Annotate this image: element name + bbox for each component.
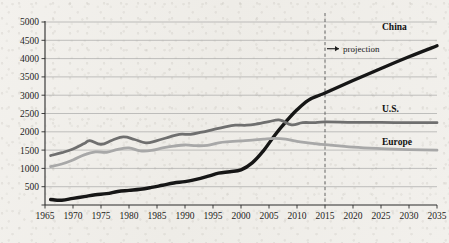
y-tick-label: 2000 (20, 127, 39, 137)
y-tick-label: 3000 (20, 91, 39, 101)
x-tick-label: 2005 (260, 211, 279, 221)
x-tick-label: 1995 (204, 211, 223, 221)
series-label-china: China (382, 22, 407, 32)
x-tick-label: 2035 (428, 211, 447, 221)
x-axis-tick-labels: 1965197019751980198519901995200020052010… (36, 211, 447, 221)
y-tick-label: 2500 (20, 109, 39, 119)
projection-arrow-head (335, 46, 339, 51)
y-tick-label: 4000 (20, 54, 39, 64)
x-tick-label: 1970 (64, 211, 83, 221)
x-tick-label: 1965 (36, 211, 55, 221)
y-tick-label: 1500 (20, 146, 39, 156)
y-tick-label: 3500 (20, 72, 39, 82)
annotations-group: projection (327, 44, 380, 54)
x-tick-label: 1980 (120, 211, 139, 221)
x-tick-label: 2015 (316, 211, 335, 221)
y-tick-label: 1000 (20, 164, 39, 174)
x-tick-label: 2010 (288, 211, 307, 221)
y-axis-tick-labels: 500100015002000250030003500400045005000 (20, 17, 39, 192)
x-tick-label: 2000 (232, 211, 251, 221)
y-tick-label: 4500 (20, 36, 39, 46)
x-tick-label: 2030 (400, 211, 419, 221)
x-tick-label: 2020 (344, 211, 363, 221)
line-chart: 500100015002000250030003500400045005000 … (0, 0, 449, 243)
x-tick-label: 1985 (148, 211, 167, 221)
x-tick-label: 1975 (92, 211, 111, 221)
x-tick-label: 1990 (176, 211, 195, 221)
series-label-europe: Europe (382, 137, 412, 147)
series-labels-group: ChinaU.S.Europe (382, 22, 412, 147)
data-series-group (51, 46, 437, 200)
y-tick-label: 5000 (20, 17, 39, 27)
projection-annotation-label: projection (343, 44, 380, 54)
series-label-us: U.S. (382, 104, 399, 114)
x-tick-label: 2025 (372, 211, 391, 221)
y-tick-label: 500 (25, 182, 40, 192)
chart-canvas: 500100015002000250030003500400045005000 … (0, 0, 449, 243)
